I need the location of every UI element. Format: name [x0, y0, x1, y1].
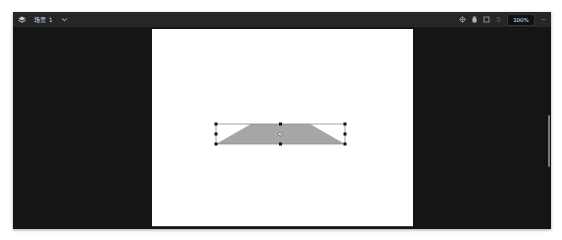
frame-icon[interactable] — [483, 16, 490, 23]
shape-layer — [152, 29, 413, 226]
toolbar: 场景 1 — [13, 12, 551, 27]
editor-window: 场景 1 — [13, 12, 551, 229]
scene-viewport[interactable] — [13, 27, 551, 229]
chevron-down-icon[interactable] — [61, 16, 68, 23]
ellipsis-icon[interactable] — [540, 16, 547, 23]
vertical-scrollbar[interactable] — [548, 115, 550, 167]
crosshair-icon[interactable] — [459, 16, 466, 23]
toolbar-right: 100% — [459, 14, 551, 26]
toolbar-left: 场景 1 — [13, 15, 68, 24]
zoom-stepper-icon[interactable] — [495, 16, 502, 23]
scene-name[interactable]: 场景 1 — [34, 15, 53, 24]
cube-stack-icon[interactable] — [18, 16, 26, 24]
hand-icon[interactable] — [471, 16, 478, 23]
canvas-artboard[interactable] — [152, 29, 413, 226]
zoom-level-field[interactable]: 100% — [507, 14, 535, 26]
anchor-point-icon[interactable] — [279, 132, 283, 136]
